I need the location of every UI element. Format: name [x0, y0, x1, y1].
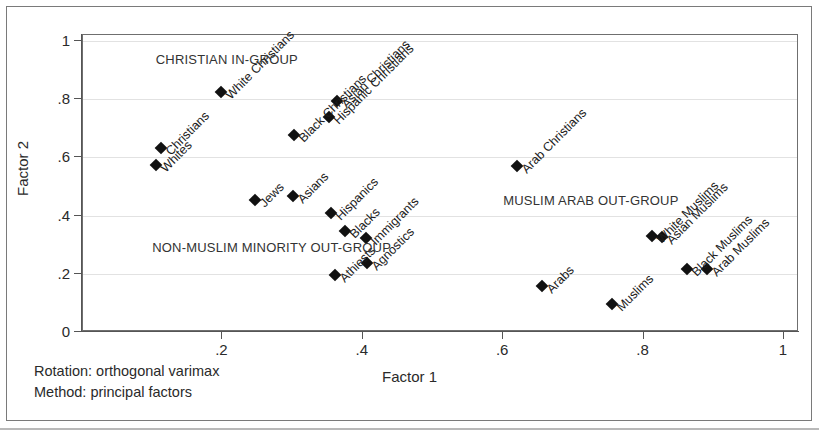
y-tick-label: .6 — [30, 149, 70, 164]
note-rotation: Rotation: orthogonal varimax — [34, 363, 219, 379]
y-tick-label: 0 — [30, 324, 70, 339]
y-tick-mark — [74, 156, 81, 157]
plot-area: ChristiansWhitesWhite ChristiansBlack Ch… — [82, 34, 798, 331]
figure-bottom-edge — [0, 428, 819, 430]
gridline — [83, 274, 797, 275]
x-axis-line — [81, 331, 799, 332]
x-tick-mark — [362, 332, 363, 339]
data-point-label: Muslims — [615, 273, 656, 314]
y-axis-title: Factor 2 — [14, 119, 31, 219]
x-tick-label: .8 — [623, 342, 663, 357]
x-tick-mark — [643, 332, 644, 339]
x-tick-label: .2 — [201, 342, 241, 357]
x-tick-mark — [783, 332, 784, 339]
x-tick-mark — [502, 332, 503, 339]
x-tick-label: .6 — [482, 342, 522, 357]
x-tick-mark — [221, 332, 222, 339]
y-axis-line — [81, 34, 82, 332]
y-tick-mark — [74, 273, 81, 274]
x-tick-label: 1 — [763, 342, 803, 357]
data-point-label: Hispanic Christians — [332, 42, 416, 126]
y-tick-label: 1 — [30, 33, 70, 48]
data-point-label: Jews — [257, 180, 286, 209]
y-tick-label: .8 — [30, 91, 70, 106]
y-tick-mark — [74, 215, 81, 216]
data-point-label: Arabs — [544, 264, 576, 296]
y-tick-label: .4 — [30, 208, 70, 223]
data-point-label: Arab Christians — [520, 106, 589, 175]
x-tick-label: .4 — [342, 342, 382, 357]
y-tick-mark — [74, 40, 81, 41]
data-point-label: Asians — [296, 171, 331, 206]
cluster-annotation: MUSLIM ARAB OUT-GROUP — [503, 193, 678, 208]
y-tick-mark — [74, 98, 81, 99]
y-tick-mark — [74, 331, 81, 332]
note-method: Method: principal factors — [34, 384, 192, 400]
y-tick-label: .2 — [30, 266, 70, 281]
gridline — [83, 99, 797, 100]
cluster-annotation: CHRISTIAN IN-GROUP — [156, 52, 298, 67]
gridline — [83, 157, 797, 158]
factor-analysis-figure: ChristiansWhitesWhite ChristiansBlack Ch… — [0, 0, 819, 436]
gridline — [83, 41, 797, 42]
cluster-annotation: NON-MUSLIM MINORITY OUT-GROUP — [152, 240, 391, 255]
